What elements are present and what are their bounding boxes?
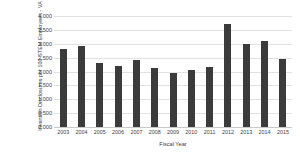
x-axis-tick-label: 2015 — [274, 129, 292, 139]
y-axis-tick-label: 0.000 — [38, 124, 52, 130]
bar-2013[interactable] — [243, 44, 250, 127]
x-axis-tick-label: 2004 — [72, 129, 90, 139]
bars-container — [54, 16, 292, 127]
axis-baseline — [54, 127, 292, 128]
bar-2012[interactable] — [224, 24, 231, 128]
x-axis-tick-label: 2009 — [164, 129, 182, 139]
bar-2011[interactable] — [206, 67, 213, 127]
x-axis-tick-label: 2013 — [237, 129, 255, 139]
y-axis-tick-label: 1.500 — [38, 82, 52, 88]
bar-2014[interactable] — [261, 41, 268, 127]
bar-slot — [274, 16, 292, 127]
bar-slot — [164, 16, 182, 127]
x-axis-tick-label: 2010 — [182, 129, 200, 139]
bar-slot — [201, 16, 219, 127]
bar-2003[interactable] — [60, 49, 67, 127]
bar-2006[interactable] — [115, 66, 122, 127]
x-axis-tick-label: 2006 — [109, 129, 127, 139]
bar-2007[interactable] — [133, 60, 140, 127]
y-axis-tick-label: 2.500 — [38, 55, 52, 61]
x-axis-tick-label: 2011 — [201, 129, 219, 139]
x-axis-tick-label: 2007 — [127, 129, 145, 139]
x-axis-title: Fiscal Year — [54, 141, 292, 147]
bar-slot — [72, 16, 90, 127]
bar-slot — [91, 16, 109, 127]
bar-slot — [219, 16, 237, 127]
x-axis-tick-label: 2012 — [219, 129, 237, 139]
x-axis-tick-label: 2014 — [255, 129, 273, 139]
y-axis-tick-label: 0.500 — [38, 110, 52, 116]
y-axis-tick-labels: 4.0003.5003.0002.5002.0001.5001.0000.500… — [30, 16, 52, 127]
bar-2010[interactable] — [188, 70, 195, 127]
y-axis-tick-label: 3.000 — [38, 41, 52, 47]
y-axis-tick-label: 1.000 — [38, 96, 52, 102]
x-axis-tick-label: 2003 — [54, 129, 72, 139]
x-axis-tick-label: 2005 — [91, 129, 109, 139]
bar-2004[interactable] — [78, 46, 85, 127]
y-axis-tick-label: 3.500 — [38, 27, 52, 33]
bar-slot — [182, 16, 200, 127]
bar-slot — [255, 16, 273, 127]
bar-slot — [109, 16, 127, 127]
bar-chart: Invention Disclosures per 100 STEM Emplo… — [0, 0, 300, 159]
plot-area — [54, 16, 292, 127]
bar-slot — [237, 16, 255, 127]
x-axis-tick-labels: 2003200420052006200720082009201020112012… — [54, 129, 292, 139]
bar-2015[interactable] — [279, 59, 286, 127]
y-axis-tick-label: 2.000 — [38, 69, 52, 75]
y-axis-tick-label: 4.000 — [38, 13, 52, 19]
bar-slot — [127, 16, 145, 127]
bar-slot — [54, 16, 72, 127]
bar-2005[interactable] — [96, 63, 103, 127]
bar-2009[interactable] — [170, 73, 177, 127]
bar-slot — [146, 16, 164, 127]
x-axis-tick-label: 2008 — [146, 129, 164, 139]
bar-2008[interactable] — [151, 68, 158, 127]
